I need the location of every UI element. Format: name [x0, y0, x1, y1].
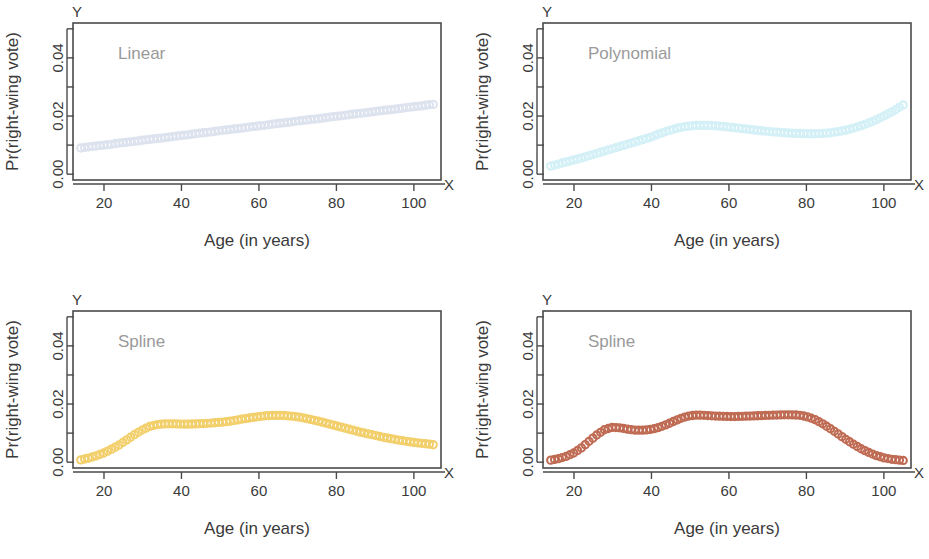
x-axis-letter: X — [444, 176, 454, 193]
y-axis-title: Pr(right-wing vote) — [473, 32, 492, 171]
x-tick-label: 80 — [798, 194, 815, 211]
x-tick-label: 40 — [643, 194, 660, 211]
y-tick-label: 0.02 — [520, 389, 537, 418]
x-tick-label: 100 — [401, 194, 426, 211]
panel-title: Polynomial — [588, 44, 671, 63]
x-tick-label: 80 — [328, 482, 345, 499]
y-axis-letter: Y — [72, 291, 82, 308]
x-tick-label: 40 — [643, 482, 660, 499]
plot-linear: 0.000.020.0420406080100YXAge (in years)P… — [0, 0, 470, 280]
y-axis-title: Pr(right-wing vote) — [3, 32, 22, 171]
x-axis-letter: X — [444, 464, 454, 481]
y-axis-title: Pr(right-wing vote) — [3, 320, 22, 459]
x-tick-label: 80 — [328, 194, 345, 211]
x-tick-label: 20 — [96, 482, 113, 499]
x-axis-title: Age (in years) — [204, 231, 310, 250]
panel-linear: 0.000.020.0420406080100YXAge (in years)P… — [0, 0, 470, 280]
plot-spline-left: 0.000.020.0420406080100YXAge (in years)P… — [0, 288, 470, 559]
y-axis-letter: Y — [542, 3, 552, 20]
data-series — [77, 412, 437, 464]
data-series — [77, 101, 437, 152]
x-tick-label: 40 — [173, 482, 190, 499]
panel-title: Spline — [118, 332, 165, 351]
y-tick-label: 0.00 — [520, 160, 537, 189]
x-axis-letter: X — [914, 176, 924, 193]
x-tick-label: 100 — [401, 482, 426, 499]
data-series — [547, 101, 907, 169]
y-tick-label: 0.02 — [520, 101, 537, 130]
plot-spline-right: 0.000.020.0420406080100YXAge (in years)P… — [470, 288, 929, 559]
y-tick-label: 0.02 — [50, 389, 67, 418]
y-tick-label: 0.00 — [520, 448, 537, 477]
y-tick-label: 0.04 — [50, 43, 67, 72]
x-tick-label: 100 — [871, 194, 896, 211]
y-axis-title: Pr(right-wing vote) — [473, 320, 492, 459]
y-tick-label: 0.04 — [520, 331, 537, 360]
y-tick-label: 0.02 — [50, 101, 67, 130]
x-tick-label: 20 — [96, 194, 113, 211]
x-axis-title: Age (in years) — [204, 519, 310, 538]
x-tick-label: 60 — [251, 194, 268, 211]
x-tick-label: 100 — [871, 482, 896, 499]
x-tick-label: 80 — [798, 482, 815, 499]
x-tick-label: 20 — [566, 194, 583, 211]
x-tick-label: 60 — [721, 482, 738, 499]
panel-spline-right: 0.000.020.0420406080100YXAge (in years)P… — [470, 288, 929, 559]
y-tick-label: 0.04 — [520, 43, 537, 72]
data-series — [547, 411, 907, 464]
y-tick-label: 0.00 — [50, 160, 67, 189]
panel-title: Spline — [588, 332, 635, 351]
panel-title: Linear — [118, 44, 166, 63]
x-tick-label: 40 — [173, 194, 190, 211]
y-tick-label: 0.00 — [50, 448, 67, 477]
panel-spline-left: 0.000.020.0420406080100YXAge (in years)P… — [0, 288, 470, 559]
panel-polynomial: 0.000.020.0420406080100YXAge (in years)P… — [470, 0, 929, 280]
y-axis-letter: Y — [72, 3, 82, 20]
x-axis-title: Age (in years) — [674, 519, 780, 538]
x-axis-title: Age (in years) — [674, 231, 780, 250]
y-tick-label: 0.04 — [50, 331, 67, 360]
x-tick-label: 60 — [721, 194, 738, 211]
x-tick-label: 60 — [251, 482, 268, 499]
x-axis-letter: X — [914, 464, 924, 481]
x-tick-label: 20 — [566, 482, 583, 499]
y-axis-letter: Y — [542, 291, 552, 308]
plot-polynomial: 0.000.020.0420406080100YXAge (in years)P… — [470, 0, 929, 280]
